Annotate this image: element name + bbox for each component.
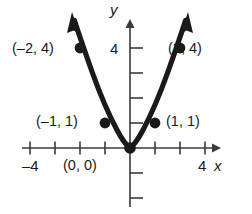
y-tick-label-4: 4: [110, 41, 118, 56]
point-label-0-0: (0, 0): [63, 158, 97, 173]
y-axis-arrow-icon: [126, 19, 135, 28]
parabola-figure: (–2, 4) (2, 4) (–1, 1) (1, 1) (0, 0) y 4…: [0, 0, 252, 214]
point-label--2-4: (–2, 4): [12, 41, 54, 56]
x-tick-label--4: –4: [22, 158, 39, 173]
y-axis-ticks: [130, 48, 143, 198]
graph-canvas: [0, 0, 252, 214]
x-axis-label: x: [214, 158, 222, 173]
y-axis-label: y: [110, 2, 118, 17]
x-tick-label-4: 4: [198, 158, 206, 173]
data-point-1-1: [150, 118, 161, 129]
data-point--1-1: [100, 118, 111, 129]
point-label--1-1: (–1, 1): [36, 114, 78, 129]
point-label-1-1: (1, 1): [166, 114, 200, 129]
data-point-0-0: [124, 142, 136, 154]
x-axis-arrow-icon: [212, 144, 221, 153]
data-point--2-4: [75, 43, 86, 54]
point-label-2-4: (2, 4): [168, 41, 202, 56]
